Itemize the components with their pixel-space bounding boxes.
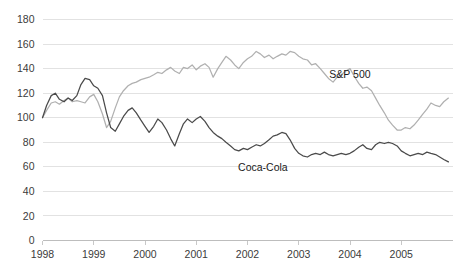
gridlines [43,20,453,241]
x-axis-tick-marks [43,241,402,245]
chart-container: 180160140120100806040200 199819992000200… [0,0,467,277]
y-tick-label: 180 [17,13,35,25]
x-axis-tick-labels: 19981999200020012002200320042005 [31,248,413,260]
series-annotations: S&P 500Coca-Cola [238,68,371,172]
x-tick-label: 2000 [133,248,157,260]
x-tick-label: 1999 [82,248,106,260]
x-tick-label: 2005 [390,248,414,260]
series-lines [43,51,449,162]
y-tick-label: 60 [23,160,35,172]
x-tick-label: 2004 [338,248,362,260]
y-tick-label: 20 [23,210,35,222]
y-tick-label: 40 [23,185,35,197]
y-tick-label: 100 [17,111,35,123]
x-tick-label: 2003 [287,248,311,260]
y-tick-label: 0 [29,234,35,246]
series-label-coca-cola: Coca-Cola [238,161,288,173]
x-tick-label: 2002 [236,248,260,260]
y-tick-label: 120 [17,87,35,99]
series-label-s-p-500: S&P 500 [329,68,370,80]
y-tick-label: 80 [23,136,35,148]
x-tick-label: 1998 [31,248,55,260]
y-tick-label: 140 [17,62,35,74]
series-line-coca-cola [43,78,449,161]
x-tick-label: 2001 [185,248,209,260]
line-chart: 180160140120100806040200 199819992000200… [0,0,467,277]
y-axis-tick-labels: 180160140120100806040200 [17,13,35,246]
y-tick-label: 160 [17,38,35,50]
